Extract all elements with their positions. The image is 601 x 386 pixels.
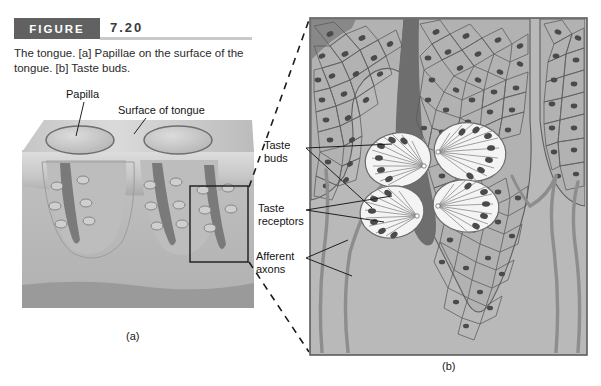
papilla-oval-left (46, 126, 114, 154)
taste-pore-upper-right (436, 150, 440, 154)
panel-b-caption: (b) (442, 360, 455, 372)
label-taste-receptors-line2: receptors (258, 215, 304, 228)
taste-pore-upper-left (422, 164, 426, 168)
figure-artwork (0, 0, 601, 386)
label-papilla: Papilla (66, 88, 99, 101)
panel-a-caption: (a) (126, 330, 139, 342)
label-taste-buds-line2: buds (264, 152, 288, 165)
label-taste-receptors-line1: Taste (258, 202, 284, 215)
papilla-oval-right (144, 126, 212, 154)
taste-pore-lower-left (415, 214, 419, 218)
label-afferent-axons-line1: Afferent (256, 250, 294, 263)
label-taste-buds-line1: Taste (264, 139, 290, 152)
label-afferent-axons-line2: axons (256, 263, 285, 276)
label-surface-of-tongue: Surface of tongue (118, 104, 205, 117)
panel-a-artwork (22, 120, 254, 308)
figure-root: FIGURE 7.20 The tongue. [a] Papillae on … (0, 0, 601, 386)
taste-pore-lower-right (436, 204, 440, 208)
